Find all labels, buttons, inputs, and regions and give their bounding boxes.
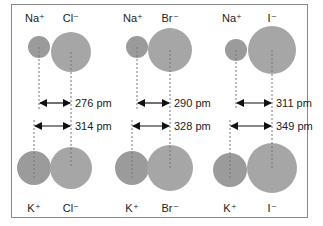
group-2-top-cation-label: Na⁺ [123, 12, 143, 24]
group-2-top-distance-label: 290 pm [174, 97, 211, 109]
ionic-radii-diagram: 276 pm314 pmNa⁺Cl⁻K⁺Cl⁻290 pm328 pmNa⁺Br… [0, 0, 323, 226]
group-2-bottom-anion-label: Br⁻ [162, 202, 179, 214]
group-2-top-anion-label: Br⁻ [162, 12, 179, 24]
group-3-bottom-cation-label: K⁺ [223, 202, 236, 214]
group-1-bottom-anion-label: Cl⁻ [63, 202, 79, 214]
group-1-bottom-cation-label: K⁺ [27, 202, 40, 214]
group-1-top-cation-label: Na⁺ [25, 12, 45, 24]
group-3-top-distance-label: 311 pm [276, 97, 312, 109]
group-1-bottom-distance-label: 314 pm [75, 120, 112, 132]
group-1-top-distance-label: 276 pm [75, 97, 112, 109]
group-3-bottom-anion-label: I⁻ [267, 202, 276, 214]
group-2-bottom-distance-label: 328 pm [174, 120, 211, 132]
group-2-bottom-cation-label: K⁺ [125, 202, 138, 214]
group-3-bottom-distance-label: 349 pm [276, 120, 313, 132]
group-3-top-anion-label: I⁻ [267, 12, 276, 24]
group-1-top-anion-label: Cl⁻ [63, 12, 79, 24]
group-3-top-cation-label: Na⁺ [222, 12, 242, 24]
